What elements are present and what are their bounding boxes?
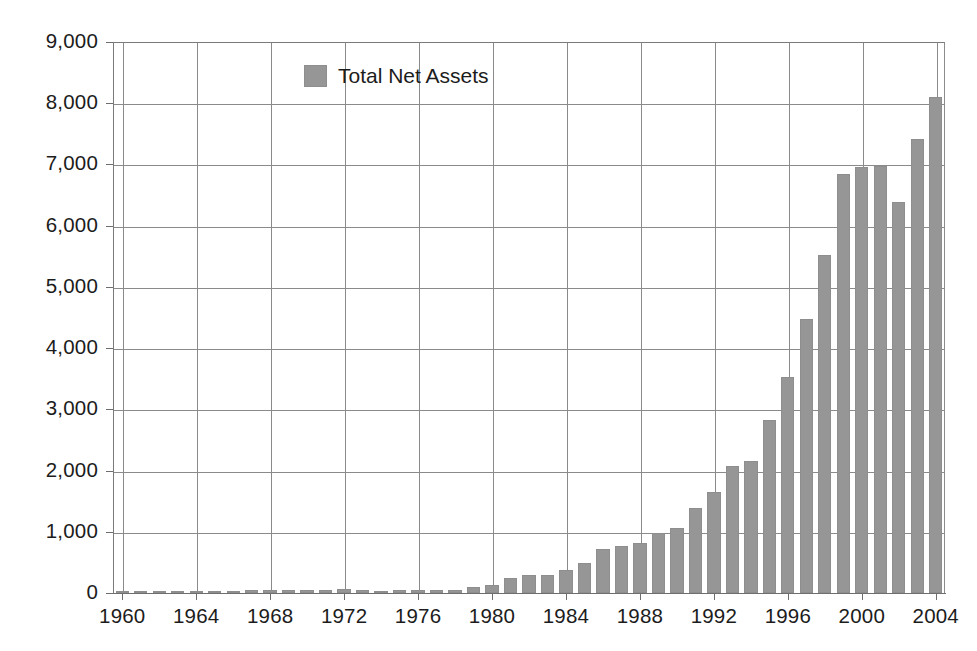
bar (559, 570, 572, 593)
bar-series-total-net-assets (113, 42, 945, 593)
x-axis-tick (936, 593, 937, 600)
bar (393, 590, 406, 593)
legend-label-total-net-assets: Total Net Assets (338, 64, 489, 88)
y-axis-tick-label: 2,000 (8, 458, 98, 482)
y-axis-tick-label: 0 (8, 580, 98, 604)
x-axis-tick (418, 593, 419, 600)
bar (208, 591, 221, 593)
bar (578, 563, 591, 593)
x-axis-tick (196, 593, 197, 600)
bar (874, 166, 887, 593)
y-axis-tick-label: 8,000 (8, 90, 98, 114)
bar (153, 591, 166, 593)
bar (726, 466, 739, 593)
bar (467, 587, 480, 593)
x-axis-tick (862, 593, 863, 600)
y-axis-tick (106, 42, 113, 43)
y-axis-tick (106, 226, 113, 227)
bar (596, 549, 609, 593)
y-axis-tick (106, 532, 113, 533)
x-axis-line (113, 593, 946, 594)
chart-legend: Total Net Assets (304, 64, 489, 88)
bar (171, 591, 184, 593)
bar (300, 590, 313, 593)
y-axis-tick-label: 5,000 (8, 274, 98, 298)
y-axis-tick (106, 471, 113, 472)
y-axis-tick-label: 3,000 (8, 396, 98, 420)
bar-chart: 01,0002,0003,0004,0005,0006,0007,0008,00… (0, 0, 977, 651)
y-axis-tick-label: 4,000 (8, 335, 98, 359)
y-axis-tick (106, 287, 113, 288)
y-axis-tick (106, 593, 113, 594)
bar (430, 590, 443, 593)
bar (116, 591, 129, 593)
legend-swatch-total-net-assets (304, 65, 327, 87)
x-axis-tick (788, 593, 789, 600)
x-axis-tick (640, 593, 641, 600)
x-axis-tick-label: 2004 (891, 604, 977, 628)
bar (670, 528, 683, 593)
y-axis-tick (106, 103, 113, 104)
bar (707, 492, 720, 593)
x-axis-tick (714, 593, 715, 600)
y-axis-tick-label: 6,000 (8, 213, 98, 237)
x-axis-tick (566, 593, 567, 600)
bar (744, 461, 757, 593)
bar (448, 590, 461, 593)
bar (374, 591, 387, 593)
bar (615, 546, 628, 593)
bar (485, 585, 498, 593)
bar (781, 377, 794, 593)
bar (633, 543, 646, 593)
bar (652, 533, 665, 593)
y-axis-tick-label: 9,000 (8, 29, 98, 53)
x-axis-tick (344, 593, 345, 600)
bar (522, 575, 535, 593)
bar (855, 167, 868, 593)
bar (227, 591, 240, 593)
x-axis-tick (492, 593, 493, 600)
bar (190, 591, 203, 593)
bar (245, 590, 258, 593)
bar (356, 590, 369, 593)
bar (837, 174, 850, 593)
x-axis-tick (270, 593, 271, 600)
y-axis-tick (106, 348, 113, 349)
y-axis-tick-label: 7,000 (8, 151, 98, 175)
bar (134, 591, 147, 593)
bar (337, 589, 350, 593)
bar (319, 590, 332, 593)
bar (800, 319, 813, 593)
bar (689, 508, 702, 593)
bar (818, 255, 831, 593)
bar (541, 575, 554, 593)
bar (892, 202, 905, 593)
bar (929, 97, 942, 593)
x-axis-tick (122, 593, 123, 600)
y-axis-tick-label: 1,000 (8, 519, 98, 543)
bar (504, 578, 517, 593)
bar (263, 590, 276, 593)
y-axis-tick (106, 409, 113, 410)
y-axis-tick (106, 164, 113, 165)
bar (282, 590, 295, 593)
bar (411, 590, 424, 593)
bar (763, 420, 776, 593)
bar (911, 139, 924, 593)
